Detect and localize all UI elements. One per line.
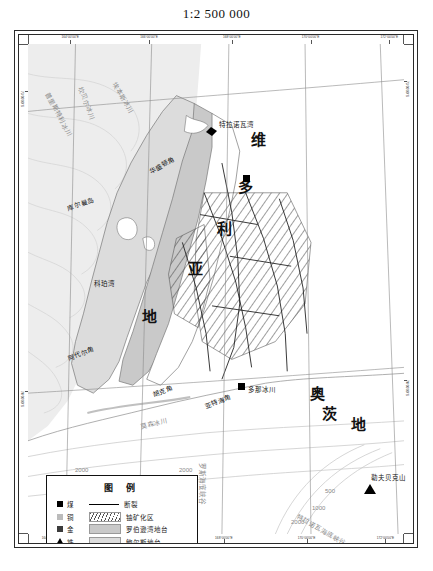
iron-symbol-icon (53, 538, 67, 544)
place-name-label: 科珀湾 (94, 278, 115, 288)
graticule-tick-label: 73°00'00"S (20, 91, 24, 107)
legend-row-copper-uranium: 铜 铀矿化区 (53, 511, 191, 524)
uranium-zone-swatch (89, 512, 121, 522)
place-name-label: 多那冰川 (248, 384, 276, 394)
mineral-symbol-square-icon (243, 175, 250, 182)
robertson-terrane-swatch (89, 524, 121, 534)
graticule-tick-label: 73°00'00"S (405, 81, 409, 97)
region-name-label: 茨 (322, 402, 338, 423)
map-legend: 图 例 煤 断裂 铜 铀矿化区 金 罗伯逊湾地台 铁 (46, 475, 198, 544)
legend-mineral-label: 金 (67, 524, 89, 534)
graticule-tick-mark (404, 81, 407, 82)
legend-title: 图 例 (53, 481, 191, 494)
graticule-tick-mark (224, 539, 225, 543)
graticule-tick-label: 166°00'00"E (140, 35, 158, 39)
graticule-tick-label: 172°00'00"E (381, 35, 399, 39)
region-name-label: 奥 (310, 382, 326, 403)
mineral-symbol-triangle-icon (364, 484, 376, 494)
coal-symbol-icon (53, 501, 67, 507)
legend-entry-label: 罗伯逊湾地台 (126, 524, 168, 534)
gold-symbol-icon (53, 526, 67, 532)
region-name-label: 利 (217, 217, 233, 238)
fault-line-swatch (89, 504, 119, 505)
legend-row-gold-robertson: 金 罗伯逊湾地台 (53, 523, 191, 536)
graticule-ticks-right: 73°00'00"S74°00'00"S (403, 35, 413, 543)
bowers-terrane-swatch (89, 537, 121, 544)
region-name-label: 地 (142, 305, 158, 326)
graticule-tick-label: 170°00'00"E (302, 35, 320, 39)
legend-row-iron-bowers: 铁 鲍尔斯地台 (53, 536, 191, 545)
legend-mineral-label: 铁 (67, 537, 89, 544)
legend-entry-label: 铀矿化区 (126, 512, 154, 522)
graticule-tick-label: 74°00'00"S (405, 380, 409, 396)
legend-entry-label: 鲍尔斯地台 (126, 537, 161, 544)
depth-contour-label: 2000 (291, 519, 304, 525)
depth-contour-label: 2000 (75, 467, 88, 473)
map-vector (28, 44, 404, 534)
legend-mineral-label: 煤 (67, 499, 89, 509)
map-frame: 164°00'00"E166°00'00"E168°00'00"E170°00'… (14, 30, 418, 548)
map-canvas (28, 44, 404, 534)
copper-symbol-icon (53, 514, 67, 520)
depth-contour-label: 500 (325, 488, 335, 494)
region-name-label: 地 (351, 413, 367, 434)
place-name-label: 特拉诺瓦湾 (219, 119, 254, 129)
mineral-symbol-square-icon (238, 383, 245, 390)
map-scale-title: 1:2 500 000 (0, 6, 433, 22)
region-name-label: 维 (251, 128, 267, 149)
legend-entry-label: 断裂 (124, 499, 138, 509)
place-name-label: 勒夫贝克山 (371, 472, 406, 482)
graticule-tick-label: 74°00'00"S (20, 391, 24, 407)
legend-row-coal-fault: 煤 断裂 (53, 498, 191, 511)
sea-feature-label: 罗斯海底峡谷 (198, 463, 208, 505)
graticule-tick-mark (307, 539, 308, 543)
graticule-tick-label: 164°00'00"E (61, 35, 79, 39)
graticule-tick-label: 168°00'00"E (223, 35, 241, 39)
depth-contour-label: 1000 (312, 505, 325, 511)
depth-contour-label: 2000 (179, 467, 192, 473)
graticule-tick-mark (385, 539, 386, 543)
graticule-tick-mark (404, 380, 407, 381)
legend-mineral-label: 铜 (67, 512, 89, 522)
region-name-label: 亚 (188, 257, 204, 278)
map-neatline: 164°00'00"E166°00'00"E168°00'00"E170°00'… (18, 34, 414, 544)
